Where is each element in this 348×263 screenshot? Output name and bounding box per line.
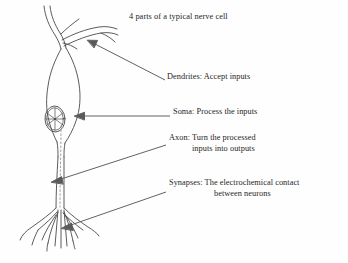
label-dendrites: Dendrites: Accept inputs <box>167 72 250 83</box>
axon-center-dashes <box>60 126 61 207</box>
arrow-to-axon <box>52 145 167 184</box>
dendrite-branches-drawing <box>44 6 118 49</box>
label-axon: Axon: Turn the processedinputs into outp… <box>169 133 256 154</box>
label-soma: Soma: Process the inputs <box>173 107 257 118</box>
figure-canvas: 4 parts of a typical nerve cell Dendrite… <box>0 0 348 263</box>
arrow-to-synapses <box>62 192 167 230</box>
label-synapses-line1: Synapses: The electrochemical contact <box>169 178 299 187</box>
label-axon-line1: Axon: Turn the processed <box>169 133 256 142</box>
axon-terminals-drawing <box>20 208 99 251</box>
arrow-to-soma <box>75 112 171 119</box>
neuron-illustration <box>0 0 348 263</box>
cell-body-drawing <box>47 48 80 157</box>
label-axon-line2: inputs into outputs <box>169 144 256 155</box>
figure-title: 4 parts of a typical nerve cell <box>129 12 228 23</box>
label-synapses-line2: between neurons <box>169 189 299 200</box>
label-synapses: Synapses: The electrochemical contactbet… <box>169 178 299 199</box>
nucleus-drawing <box>44 105 66 132</box>
arrow-to-dendrites <box>88 40 166 80</box>
